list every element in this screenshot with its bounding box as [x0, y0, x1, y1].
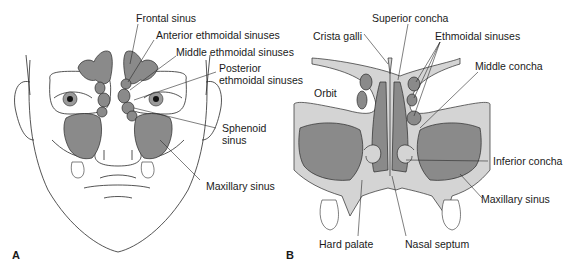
panel-letter-b: B [286, 249, 294, 261]
label-posterior-ethmoidal-2: ethmoidal sinuses [219, 74, 303, 86]
label-anterior-ethmoidal: Anterior ethmoidal sinuses [156, 29, 280, 41]
label-orbit: Orbit [314, 87, 337, 99]
label-inferior-concha: Inferior concha [493, 155, 562, 167]
panel-a-face [15, 55, 222, 252]
label-maxillary-sinus-a: Maxillary sinus [206, 180, 275, 192]
label-frontal-sinus: Frontal sinus [136, 12, 196, 24]
label-crista-galli: Crista galli [313, 30, 362, 42]
label-hard-palate: Hard palate [319, 238, 373, 250]
label-middle-ethmoidal: Middle ethmoidal sinuses [176, 46, 294, 58]
label-sphenoid-1: Sphenoid [222, 122, 266, 134]
label-superior-concha: Superior concha [372, 12, 448, 24]
label-middle-concha: Middle concha [475, 60, 543, 72]
label-posterior-ethmoidal-1: Posterior [219, 62, 261, 74]
label-maxillary-sinus-b: Maxillary sinus [481, 193, 550, 205]
label-sphenoid-2: sinus [222, 134, 247, 146]
panel-letter-a: A [12, 249, 20, 261]
panel-a-eyes [63, 92, 163, 106]
label-ethmoidal-sinuses: Ethmoidal sinuses [435, 30, 520, 42]
label-nasal-septum: Nasal septum [405, 238, 469, 250]
